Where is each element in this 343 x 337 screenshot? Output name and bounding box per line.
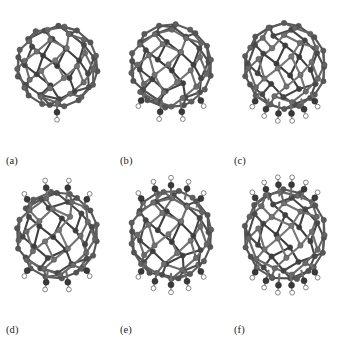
- panel-c: (c): [228, 0, 342, 168]
- panel-b: (b): [114, 0, 228, 168]
- molecule-svg-c: [228, 0, 342, 146]
- molecule-svg-d: [0, 169, 114, 315]
- panel-caption-c: (c): [234, 156, 246, 167]
- panel-f: (f): [228, 169, 342, 337]
- molecule-render-a: [0, 0, 114, 146]
- panel-caption-e: (e): [120, 325, 132, 336]
- panel-caption-a: (a): [6, 156, 18, 167]
- panel-a: (a): [0, 0, 114, 168]
- molecule-render-c: [228, 0, 342, 146]
- panel-d: (d): [0, 169, 114, 337]
- panel-caption-f: (f): [234, 325, 245, 336]
- molecule-render-f: [228, 169, 342, 315]
- panel-caption-b: (b): [120, 156, 133, 167]
- molecule-render-e: [114, 169, 228, 315]
- molecule-svg-a: [0, 0, 114, 146]
- molecule-render-d: [0, 169, 114, 315]
- panel-caption-d: (d): [6, 325, 19, 336]
- molecule-svg-e: [114, 169, 228, 315]
- molecule-svg-b: [114, 0, 228, 146]
- fullerene-hydroxylation-figure: (a) (b) (c) (d) (e) (f): [0, 0, 343, 337]
- molecule-svg-f: [228, 169, 342, 315]
- panel-e: (e): [114, 169, 228, 337]
- molecule-render-b: [114, 0, 228, 146]
